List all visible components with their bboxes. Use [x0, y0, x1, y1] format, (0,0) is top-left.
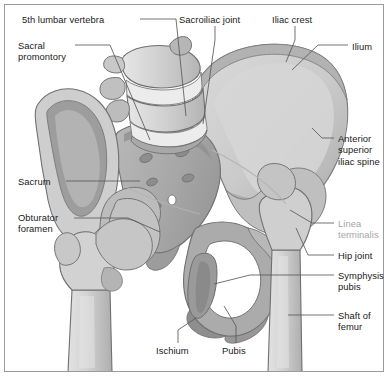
anatomy-figure: 5th lumbar vertebra Sacral promontory Sa…: [0, 0, 389, 378]
label-ilium: Ilium: [352, 41, 372, 52]
label-obturator-foramen: Obturator foramen: [18, 212, 58, 235]
label-hip-joint: Hip joint: [338, 250, 372, 261]
label-sacral-promontory: Sacral promontory: [18, 40, 66, 63]
label-ischium: Ischium: [156, 345, 189, 356]
label-iliac-crest: Iliac crest: [272, 14, 312, 25]
label-shaft-of-femur: Shaft of femur: [338, 310, 371, 333]
label-symphysis-pubis: Symphysis pubis: [338, 270, 384, 293]
label-5th-lumbar-vertebra: 5th lumbar vertebra: [22, 14, 104, 25]
label-sacrum: Sacrum: [18, 176, 51, 187]
label-anterior-superior-iliac-spine: Anterior superior iliac spine: [338, 133, 380, 167]
label-pubis: Pubis: [222, 345, 246, 356]
label-linea-terminalis: Linea terminalis: [338, 218, 379, 241]
label-layer: 5th lumbar vertebra Sacral promontory Sa…: [0, 0, 389, 378]
label-sacroiliac-joint: Sacroiliac joint: [179, 14, 240, 25]
